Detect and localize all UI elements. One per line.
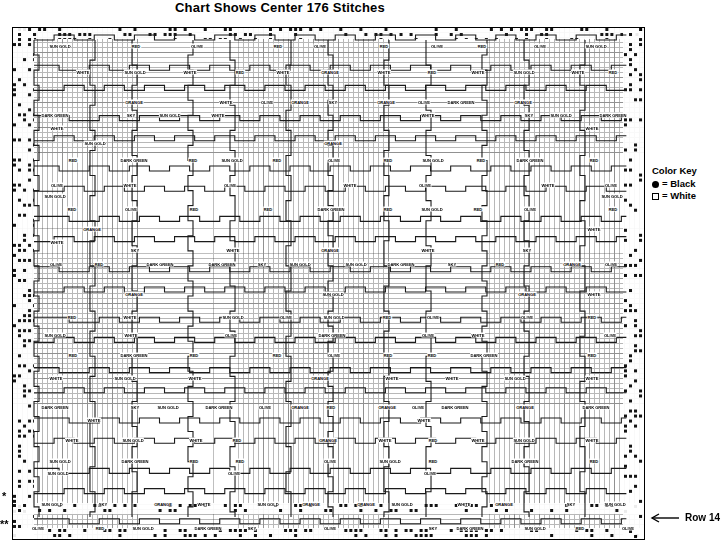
row-annotation-label: Row 14 <box>685 512 720 523</box>
color-key-row-white: = White <box>652 190 728 202</box>
border-band-right <box>623 27 645 540</box>
border-band-left <box>12 27 34 540</box>
color-key-label-white: = White <box>662 190 696 202</box>
border-speckle <box>12 27 645 39</box>
border-speckle <box>623 27 645 540</box>
border-speckle <box>12 503 645 514</box>
left-arrow-icon <box>650 513 680 523</box>
border-band-top <box>12 27 645 39</box>
marker-double-asterisk: ** <box>0 520 9 528</box>
grid-major-lines <box>12 27 645 540</box>
color-key-title: Color Key <box>652 165 728 177</box>
marker-single-asterisk: * <box>2 492 6 500</box>
filled-circle-icon <box>652 181 659 188</box>
color-key: Color Key = Black = White <box>652 165 728 202</box>
color-key-row-black: = Black <box>652 178 728 190</box>
border-speckle <box>12 528 645 540</box>
border-band-bottom <box>12 528 645 540</box>
stitch-chart: SUN GOLDREDOLIVEREDOLIVEREDOLIVEREDOLIVE… <box>12 27 645 540</box>
row-annotation: Row 14 <box>650 512 720 523</box>
empty-square-icon <box>652 193 659 200</box>
page-title: Chart Shows Center 176 Stitches <box>0 0 560 15</box>
border-band-inner-bottom <box>12 503 645 514</box>
color-key-label-black: = Black <box>662 178 696 190</box>
border-speckle <box>12 27 34 540</box>
